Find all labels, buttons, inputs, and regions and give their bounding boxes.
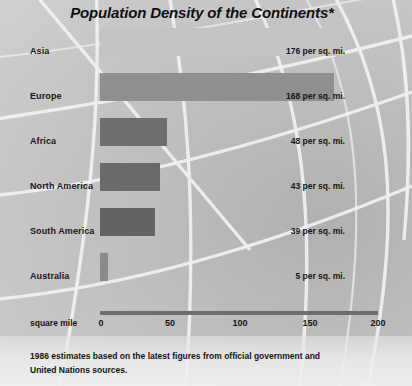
footnote-line-1: 1986 estimates based on the latest figur…	[30, 349, 320, 363]
value-label-europe: 168 per sq. mi.	[286, 91, 345, 101]
x-tick-50: 50	[165, 318, 175, 328]
category-label-asia: Asia	[30, 46, 49, 56]
chart-row-africa: Africa 48 per sq. mi.	[0, 118, 412, 163]
x-tick-150: 150	[302, 318, 317, 328]
value-label-south-america: 39 per sq. mi.	[291, 226, 345, 236]
bar-africa	[100, 118, 167, 146]
category-label-europe: Europe	[30, 91, 62, 101]
category-label-south-america: South America	[30, 226, 94, 236]
chart-row-north-america: North America 43 per sq. mi.	[0, 163, 412, 208]
value-label-australia: 5 per sq. mi.	[295, 271, 345, 281]
page-title: Population Density of the Continents*	[0, 4, 404, 21]
x-axis-unit-label: square mile	[30, 318, 77, 328]
x-axis-line	[100, 311, 378, 315]
value-label-north-america: 43 per sq. mi.	[291, 181, 345, 191]
bar-australia	[100, 253, 108, 281]
bar-north-america	[100, 163, 160, 191]
chart-row-europe: Europe 168 per sq. mi.	[0, 73, 412, 118]
chart-row-south-america: South America 39 per sq. mi.	[0, 208, 412, 253]
value-label-africa: 48 per sq. mi.	[291, 136, 345, 146]
chart-row-australia: Australia 5 per sq. mi.	[0, 253, 412, 298]
footnote-line-2: United Nations sources.	[30, 363, 320, 377]
x-tick-0: 0	[98, 318, 103, 328]
category-label-north-america: North America	[30, 181, 93, 191]
chart-container: Population Density of the Continents* As…	[0, 0, 412, 386]
value-label-asia: 176 per sq. mi.	[286, 46, 345, 56]
category-label-australia: Australia	[30, 271, 69, 281]
footnote: 1986 estimates based on the latest figur…	[30, 349, 320, 377]
x-tick-200: 200	[370, 318, 385, 328]
bar-south-america	[100, 208, 155, 236]
chart-row-asia: Asia 176 per sq. mi.	[0, 28, 412, 73]
category-label-africa: Africa	[30, 136, 56, 146]
x-tick-100: 100	[232, 318, 247, 328]
